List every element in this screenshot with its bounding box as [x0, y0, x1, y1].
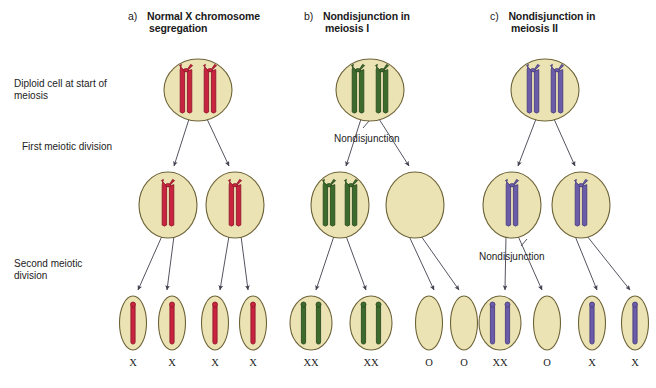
arrow-meiosis-ii-panel-b-4 — [421, 236, 459, 290]
chromosome-single-gamete-c-1-1 — [490, 302, 495, 344]
meiosis-diagram-svg — [0, 0, 656, 388]
chromosome-single-gamete-b-2-2 — [376, 302, 381, 344]
panel-c-letter: c) — [490, 10, 499, 22]
gamete-cell-panel-a-3 — [202, 296, 229, 350]
arrow-meiosis-i-panel-a-1 — [174, 119, 189, 166]
stage-label-diploid: Diploid cell at start of meiosis — [14, 78, 136, 102]
gamete-label-panel-b-2: XX — [351, 357, 391, 368]
arrow-meiosis-ii-panel-b-3 — [409, 236, 434, 290]
chromosome-single-gamete-c-1-2 — [505, 302, 510, 344]
arrow-meiosis-ii-panel-c-1 — [505, 236, 506, 290]
gamete-cell-panel-c-4 — [622, 296, 649, 350]
gamete-cell-panel-c-3 — [579, 296, 606, 350]
chromosome-single-gamete-b-2-1 — [361, 302, 366, 344]
arrow-meiosis-i-panel-a-2 — [207, 119, 229, 166]
meiosis-i-cell-panel-a-1 — [139, 172, 197, 238]
panel-c-title-line1: Nondisjunction in — [508, 10, 595, 22]
chromosome-single-gamete-a-1-1 — [131, 302, 136, 344]
gamete-cell-panel-a-4 — [240, 296, 267, 350]
chromosome-single-gamete-b-1-2 — [316, 302, 321, 344]
gamete-label-panel-b-1: XX — [291, 357, 331, 368]
panel-b-title-line1: Nondisjunction in — [323, 10, 410, 22]
gamete-label-panel-b-4: O — [444, 357, 484, 368]
nondisjunction-leader-meiosis-i — [363, 121, 369, 128]
arrow-meiosis-ii-panel-a-2 — [167, 236, 174, 290]
stage-label-first-division: First meiotic division — [22, 141, 150, 153]
gamete-cell-panel-a-1 — [120, 296, 147, 350]
arrow-meiosis-ii-panel-a-1 — [138, 236, 162, 290]
panel-b-letter: b) — [304, 10, 313, 22]
meiosis-i-cell-panel-a-2 — [206, 172, 264, 238]
nondisjunction-label-meiosis-ii: Nondisjunction — [479, 251, 545, 262]
stage-label-diploid-line2: meiosis — [14, 90, 48, 101]
meiosis-i-cell-panel-c-2 — [552, 172, 610, 238]
gamete-cell-panel-b-4 — [451, 296, 478, 350]
gamete-label-panel-b-3: O — [409, 357, 449, 368]
arrow-meiosis-ii-panel-a-3 — [220, 236, 229, 290]
chromosome-single-gamete-a-2-1 — [170, 302, 175, 344]
gamete-label-panel-c-3: X — [572, 357, 612, 368]
meiosis-i-cell-panel-c-1 — [483, 172, 541, 238]
gamete-label-panel-a-4: X — [233, 357, 273, 368]
stage-label-second-division: Second meiotic division — [14, 258, 126, 282]
parent-cell-panel-b — [336, 59, 404, 121]
cells-layer — [120, 59, 649, 350]
gamete-label-panel-c-4: X — [615, 357, 655, 368]
gamete-cell-panel-a-2 — [159, 296, 186, 350]
stage-label-diploid-line1: Diploid cell at start of — [14, 78, 107, 89]
gamete-cell-panel-b-3 — [416, 296, 443, 350]
chromosome-single-gamete-c-3-1 — [590, 302, 595, 344]
gamete-label-panel-a-1: X — [113, 357, 153, 368]
gamete-label-panel-c-2: O — [527, 357, 567, 368]
parent-cell-panel-c — [511, 59, 579, 121]
panel-c-title-line2: meiosis II — [511, 23, 558, 35]
arrow-meiosis-i-panel-c-2 — [554, 119, 575, 166]
panel-b-header: b) Nondisjunction in meiosis I — [304, 11, 454, 34]
chromosome-single-gamete-b-1-1 — [301, 302, 306, 344]
chromosome-single-gamete-a-4-1 — [251, 302, 256, 344]
gamete-label-panel-c-1: XX — [480, 357, 520, 368]
figure-canvas: a) Normal X chromosome segregation b) No… — [0, 0, 656, 388]
nondisjunction-leader-meiosis-ii — [521, 239, 527, 246]
panel-a-header: a) Normal X chromosome segregation — [128, 11, 298, 34]
stage-label-second-division-line2: division — [14, 270, 47, 281]
panel-a-title-line2: segregation — [149, 23, 207, 35]
chromosome-single-gamete-c-4-1 — [633, 302, 638, 344]
gamete-label-panel-a-2: X — [152, 357, 192, 368]
nondisjunction-label-meiosis-i: Nondisjunction — [334, 133, 400, 144]
gamete-cell-panel-b-1 — [290, 296, 332, 350]
meiosis-i-cell-panel-b-2 — [386, 172, 444, 238]
arrow-meiosis-ii-panel-b-2 — [346, 236, 366, 290]
gamete-cell-panel-c-2 — [534, 296, 561, 350]
gamete-label-panel-a-3: X — [195, 357, 235, 368]
arrow-meiosis-ii-panel-a-4 — [241, 236, 248, 290]
parent-cell-panel-a — [164, 59, 232, 121]
gamete-cell-panel-c-1 — [479, 296, 521, 350]
panel-b-title-line2: meiosis I — [325, 23, 369, 35]
panel-a-letter: a) — [128, 10, 137, 22]
arrow-meiosis-ii-panel-c-2 — [518, 236, 542, 290]
chromosome-single-gamete-a-3-1 — [213, 302, 218, 344]
gamete-cell-panel-b-2 — [350, 296, 392, 350]
arrow-meiosis-i-panel-c-1 — [518, 119, 536, 166]
panel-c-header: c) Nondisjunction in meiosis II — [490, 11, 640, 34]
stage-label-first-division-line1: First meiotic division — [22, 141, 112, 152]
meiosis-i-cell-panel-b-1 — [311, 172, 369, 238]
panel-a-title-line1: Normal X chromosome — [147, 10, 260, 22]
stage-label-second-division-line1: Second meiotic — [14, 258, 82, 269]
arrow-meiosis-ii-panel-b-1 — [316, 236, 334, 290]
